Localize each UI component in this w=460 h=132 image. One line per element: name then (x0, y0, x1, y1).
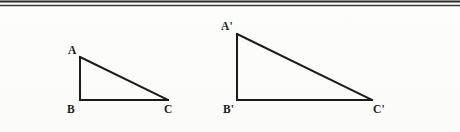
figure-page: A B C A' B' C' (0, 0, 460, 132)
vertex-label-a-prime: A' (221, 21, 233, 33)
segment-ac-hypotenuse (80, 57, 168, 100)
vertex-label-b-prime: B' (223, 104, 234, 116)
segment-a-prime-c-prime-hypotenuse (237, 34, 372, 100)
vertex-label-b: B (67, 104, 75, 116)
vertex-label-c-prime: C' (373, 104, 385, 116)
triangle-a-prime-b-prime-c-prime (237, 34, 372, 100)
triangle-abc (80, 57, 168, 100)
vertex-label-c: C (164, 104, 173, 116)
vertex-label-a: A (68, 45, 77, 57)
double-horizontal-rule (0, 2, 460, 6)
